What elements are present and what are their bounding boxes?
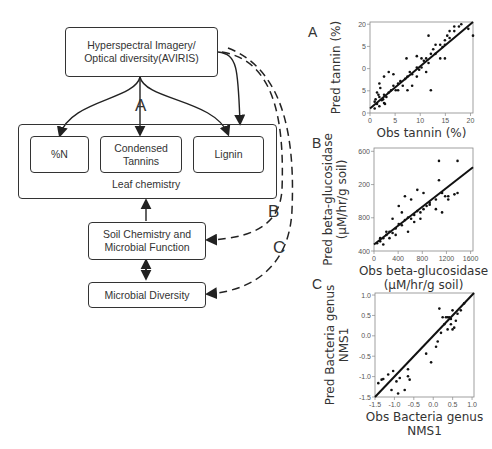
data-point (439, 43, 442, 46)
data-point (460, 23, 463, 26)
scatter-plots: 05101520050520Obs tannin (%)Pred tannin … (0, 0, 492, 449)
data-point (416, 75, 419, 78)
data-point (434, 43, 437, 46)
data-point (410, 218, 413, 221)
data-point (448, 37, 451, 40)
svg-text:400: 400 (392, 255, 404, 262)
data-point (447, 198, 450, 201)
svg-text:20: 20 (358, 21, 366, 28)
svg-text:-1.5: -1.5 (369, 401, 381, 408)
scatter-plot-b: 040080012001600400800200600Obs beta-gluc… (321, 133, 488, 292)
data-point (441, 316, 444, 319)
data-point (419, 211, 422, 214)
data-point (397, 89, 400, 92)
data-point (392, 370, 395, 373)
data-point (472, 34, 475, 37)
data-point (432, 48, 435, 51)
regression-line (375, 293, 474, 397)
y-axis-label: Pred beta-glucosidase (321, 133, 335, 266)
data-point (446, 328, 449, 331)
data-point (373, 107, 376, 110)
data-point (387, 373, 390, 376)
y-axis-label: Pred Bacteria genus (323, 285, 337, 406)
data-point (394, 89, 397, 92)
data-point (404, 195, 407, 198)
data-point (455, 319, 458, 322)
scatter-plot-a: 05101520050520Obs tannin (%)Pred tannin … (329, 21, 474, 140)
data-point (406, 89, 409, 92)
x-axis-label: Obs tannin (%) (377, 126, 467, 140)
svg-text:0: 0 (372, 255, 376, 262)
data-point (441, 211, 444, 214)
data-point (460, 309, 463, 312)
data-point (410, 198, 413, 201)
svg-text:800: 800 (416, 255, 428, 262)
data-point (435, 198, 438, 201)
data-point (439, 57, 442, 60)
data-point (377, 382, 380, 385)
data-point (444, 195, 447, 198)
data-point (377, 94, 380, 97)
svg-text:800: 800 (358, 214, 370, 221)
svg-text:600: 600 (358, 148, 370, 155)
data-point (444, 57, 447, 60)
svg-text:1.0: 1.0 (467, 401, 477, 408)
data-point (382, 243, 385, 246)
data-point (374, 98, 377, 101)
x-axis-label: NMS1 (407, 424, 442, 438)
data-point (453, 25, 456, 28)
y-axis-label: Pred tannin (%) (329, 21, 343, 114)
data-point (388, 237, 391, 240)
svg-text:0.5: 0.5 (448, 401, 458, 408)
svg-text:10: 10 (416, 117, 424, 124)
data-point (408, 378, 411, 381)
data-point (435, 345, 438, 348)
regression-line (370, 22, 473, 108)
svg-text:5: 5 (362, 87, 366, 94)
data-point (397, 205, 400, 208)
data-point (453, 326, 456, 329)
data-point (438, 179, 441, 182)
svg-text:1200: 1200 (439, 255, 455, 262)
data-point (401, 211, 404, 214)
data-point (453, 193, 456, 196)
data-point (451, 309, 454, 312)
data-point (405, 57, 408, 60)
svg-text:-1.5: -1.5 (359, 394, 371, 401)
data-point (456, 313, 459, 316)
data-point (450, 323, 453, 326)
data-point (392, 73, 395, 76)
svg-text:0: 0 (362, 65, 366, 72)
data-point (376, 91, 379, 94)
data-point (378, 96, 381, 99)
svg-text:1.0: 1.0 (361, 292, 371, 299)
data-point (419, 218, 422, 221)
svg-text:1600: 1600 (463, 255, 479, 262)
svg-text:5: 5 (393, 117, 397, 124)
data-point (387, 71, 390, 74)
data-point (416, 189, 419, 192)
data-point (411, 84, 414, 87)
data-point (436, 340, 439, 343)
data-point (394, 234, 397, 237)
svg-text:0: 0 (368, 117, 372, 124)
x-axis-label: Obs Bacteria genus (366, 410, 483, 424)
x-axis-label: Obs beta-glucosidase (359, 264, 488, 278)
data-point (427, 62, 430, 65)
svg-text:-0.5: -0.5 (359, 353, 371, 360)
data-point (458, 25, 461, 28)
data-point (456, 192, 459, 195)
data-point (395, 380, 398, 383)
svg-text:15: 15 (441, 117, 449, 124)
data-point (438, 160, 441, 163)
data-point (382, 378, 385, 381)
data-point (407, 375, 410, 378)
data-point (448, 30, 451, 33)
data-point (425, 71, 428, 74)
svg-text:5: 5 (362, 43, 366, 50)
data-point (384, 103, 387, 106)
svg-text:0.0: 0.0 (428, 401, 438, 408)
data-point (407, 230, 410, 233)
data-point (427, 34, 430, 37)
data-point (407, 368, 410, 371)
